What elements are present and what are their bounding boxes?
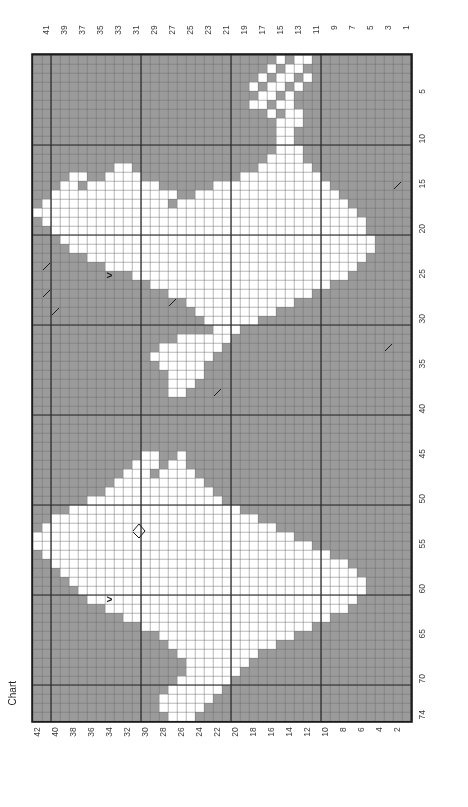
chart-caption: Chart — [7, 681, 18, 705]
chart-page: 4139373533312927252321191715131197531424… — [0, 0, 468, 807]
knitting-chart-grid[interactable] — [0, 0, 468, 807]
